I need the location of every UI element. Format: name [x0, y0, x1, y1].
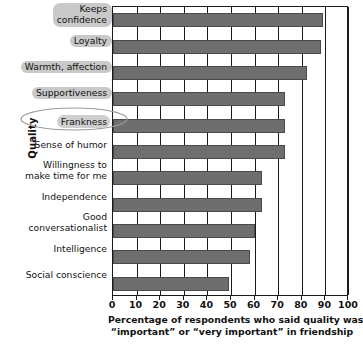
bar	[113, 145, 285, 159]
category-label-intelligence: Intelligence	[50, 243, 110, 256]
category-row: Warmth, affection	[8, 54, 110, 80]
bar-chart: Quality Keeps confidence Loyalty Warmth,…	[0, 0, 363, 347]
category-label-good-conversationalist: Good conversationalist	[24, 211, 110, 234]
x-axis-tick-label: 100	[338, 299, 358, 310]
bar-series	[113, 7, 347, 295]
category-label-supportiveness: Supportiveness	[32, 87, 110, 100]
category-row: Intelligence	[8, 236, 110, 262]
y-axis-category-labels: Keeps confidence Loyalty Warmth, affecti…	[8, 0, 110, 300]
x-axis-caption-line-1: Percentage of respondents who said quali…	[108, 314, 356, 326]
x-axis-tick-label: 0	[109, 299, 116, 310]
x-axis-tick-label: 70	[271, 299, 284, 310]
category-row: Independence	[8, 184, 110, 210]
bar	[113, 92, 285, 106]
x-axis-caption-line-2: “important” or “very important” in frien…	[108, 326, 356, 338]
category-row: Social conscience	[8, 262, 110, 288]
plot-area	[112, 6, 348, 296]
category-label-sense-of-humor: Sense of humor	[31, 139, 110, 152]
x-axis-caption: Percentage of respondents who said quali…	[108, 314, 356, 337]
category-label-frankness: Frankness	[57, 115, 110, 128]
category-row: Willingness to make time for me	[8, 158, 110, 184]
category-row: Supportiveness	[8, 80, 110, 106]
category-label-loyalty: Loyalty	[70, 35, 110, 48]
category-label-independence: Independence	[38, 191, 110, 204]
category-row: Sense of humor	[8, 132, 110, 158]
bar	[113, 224, 255, 238]
category-label-social-conscience: Social conscience	[22, 269, 110, 282]
bar	[113, 198, 262, 212]
x-axis-tick-labels: 0102030405060708090100	[112, 299, 348, 313]
category-label-willingness-to-make-time-for-me: Willingness to make time for me	[21, 159, 110, 182]
x-axis-tick-label: 20	[153, 299, 166, 310]
category-label-warmth-affection: Warmth, affection	[21, 61, 110, 74]
x-axis-tick-label: 80	[294, 299, 307, 310]
bar	[113, 277, 229, 291]
category-row: Frankness	[8, 106, 110, 132]
bar	[113, 171, 262, 185]
x-axis-tick-label: 90	[318, 299, 331, 310]
frankness-oval-annotation: Frankness	[57, 110, 110, 129]
category-row: Loyalty	[8, 28, 110, 54]
bar	[113, 66, 307, 80]
bar	[113, 250, 250, 264]
bar	[113, 119, 285, 133]
bar	[113, 13, 323, 27]
category-label-keeps-confidence: Keeps confidence	[53, 3, 110, 26]
bar	[113, 40, 321, 54]
category-row: Keeps confidence	[8, 2, 110, 28]
x-axis-tick-label: 30	[176, 299, 189, 310]
x-axis-tick-label: 60	[247, 299, 260, 310]
x-axis-tick-label: 10	[129, 299, 142, 310]
x-axis-tick-label: 40	[200, 299, 213, 310]
gridline	[348, 7, 349, 295]
x-axis-tick-label: 50	[223, 299, 236, 310]
category-row: Good conversationalist	[8, 210, 110, 236]
